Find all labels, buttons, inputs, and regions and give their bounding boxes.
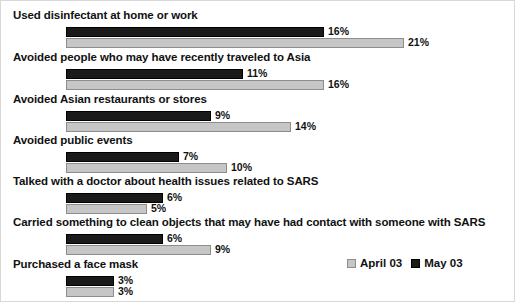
bar-value-label: 16% — [328, 25, 349, 37]
bar-value-label: 9% — [215, 109, 230, 121]
bar-may — [66, 69, 243, 79]
bar-value-label: 3% — [118, 285, 133, 297]
category-label: Avoided public events — [13, 134, 133, 146]
bar-value-label: 10% — [231, 161, 252, 173]
bar-may — [66, 276, 114, 286]
bar-april — [66, 287, 114, 297]
bar-april — [66, 163, 227, 173]
bar-may — [66, 111, 211, 121]
bar-value-label: 11% — [247, 67, 267, 79]
category-label: Carried something to clean objects that … — [13, 216, 485, 228]
bar-value-label: 9% — [215, 243, 230, 255]
category-label: Avoided people who may have recently tra… — [13, 51, 310, 63]
legend-entry-april: April 03 — [347, 257, 402, 269]
chart-legend: April 03 May 03 — [347, 257, 463, 269]
bar-may — [66, 152, 179, 162]
category-label: Talked with a doctor about health issues… — [13, 175, 318, 187]
bar-value-label: 14% — [295, 120, 316, 132]
bar-may — [66, 27, 324, 37]
legend-label-may: May 03 — [424, 257, 462, 269]
bar-april — [66, 38, 404, 48]
bar-value-label: 21% — [408, 36, 429, 48]
bar-april — [66, 122, 291, 132]
sars-precautions-bar-chart: Used disinfectant at home or work16%21%A… — [0, 0, 515, 302]
bar-value-label: 5% — [151, 202, 166, 214]
category-label: Used disinfectant at home or work — [13, 9, 198, 21]
bar-value-label: 16% — [328, 78, 349, 90]
bar-may — [66, 234, 163, 244]
bar-may — [66, 193, 163, 203]
bar-value-label: 6% — [167, 232, 182, 244]
bar-value-label: 6% — [167, 191, 182, 203]
category-label: Purchased a face mask — [13, 258, 138, 270]
category-label: Avoided Asian restaurants or stores — [13, 93, 207, 105]
legend-entry-may: May 03 — [411, 257, 462, 269]
legend-label-april: April 03 — [360, 257, 402, 269]
bar-value-label: 7% — [183, 150, 198, 162]
legend-swatch-may-icon — [411, 259, 420, 268]
bar-april — [66, 80, 324, 90]
bar-april — [66, 204, 147, 214]
bar-april — [66, 245, 211, 255]
legend-swatch-april-icon — [347, 259, 356, 268]
